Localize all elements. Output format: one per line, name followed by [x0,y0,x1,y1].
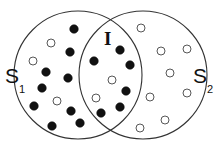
set-s2-label: S [193,64,207,87]
set-s1-subscript: 1 [19,83,25,95]
open-point [136,124,144,132]
open-point [137,24,145,32]
filled-point [70,25,79,34]
open-point [183,45,191,53]
open-point [47,39,55,47]
set-s1-label: S [5,64,19,87]
open-point [161,116,169,124]
open-point [183,89,191,97]
filled-point [116,46,125,55]
filled-point [97,109,106,118]
filled-point [122,87,131,96]
filled-point [48,122,57,131]
open-point [157,47,165,55]
filled-point [66,48,75,57]
filled-point [90,57,99,66]
set-s2-subscript: 2 [207,83,213,95]
open-point [53,97,61,105]
filled-point [76,119,85,128]
open-point [146,93,154,101]
open-point [92,94,100,102]
filled-point [67,107,76,116]
filled-point [126,61,135,70]
open-point [29,57,37,65]
filled-point [116,103,125,112]
open-point [108,76,116,84]
open-point [166,69,174,77]
intersection-label: I [104,28,111,49]
filled-point [64,74,73,83]
filled-point [30,102,39,111]
venn-diagram: S 1 S 2 I [0,0,221,150]
filled-point [38,84,47,93]
filled-point [42,68,51,77]
